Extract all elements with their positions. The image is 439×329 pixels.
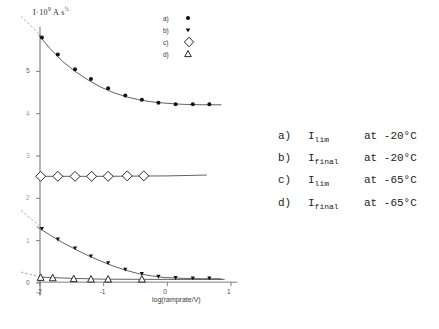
y-axis-title-unit-exponent: ½ bbox=[65, 6, 70, 12]
caption-row-d: d) Ifinal at -65°C bbox=[278, 194, 417, 216]
filled-triangle-down-icon bbox=[183, 25, 201, 35]
y-axis-title-unit: A s bbox=[53, 8, 65, 17]
x-tick-label-1: -1 bbox=[100, 288, 106, 295]
caption-row-b: b) Ifinal at -20°C bbox=[278, 149, 417, 171]
y-axis-title-dot: ·10 bbox=[36, 8, 48, 17]
data-point-a-9 bbox=[191, 102, 195, 106]
y-axis-title-exponent: 9 bbox=[48, 6, 51, 12]
caption-key-b: b) bbox=[278, 149, 308, 168]
caption-condition-b: at -20°C bbox=[364, 149, 417, 168]
caption-block: a) Ilim at -20°C b) Ifinal at -20°C c) I… bbox=[278, 127, 417, 216]
caption-symbol-d: Ifinal bbox=[308, 194, 364, 216]
data-point-a-6 bbox=[140, 98, 144, 102]
caption-symbol-c: Ilim bbox=[308, 171, 364, 193]
caption-key-a: a) bbox=[278, 127, 308, 146]
x-axis-title: log(ramprate/V) bbox=[152, 296, 201, 303]
caption-symbol-d-sub: final bbox=[315, 202, 339, 211]
caption-symbol-c-base: I bbox=[308, 174, 315, 186]
x-tick-label-2: 0 bbox=[163, 288, 167, 295]
legend-key-b: b) bbox=[163, 27, 183, 34]
legend-key-d: d) bbox=[163, 51, 183, 58]
caption-condition-d: at -65°C bbox=[364, 194, 417, 213]
data-point-c-5 bbox=[122, 171, 132, 181]
caption-key-d: d) bbox=[278, 194, 308, 213]
data-point-c-3 bbox=[87, 171, 97, 181]
legend-item-c: c) bbox=[163, 36, 227, 48]
y-tick-label-4: 4 bbox=[26, 110, 30, 117]
b-fit-curve bbox=[37, 227, 222, 279]
caption-condition-c: at -65°C bbox=[364, 171, 417, 190]
caption-symbol-a-base: I bbox=[308, 130, 315, 142]
data-point-c-2 bbox=[70, 171, 80, 181]
y-tick-label-1: 1 bbox=[26, 237, 30, 244]
data-point-a-2 bbox=[73, 67, 77, 71]
caption-symbol-b-base: I bbox=[308, 152, 315, 164]
legend-item-a: a) bbox=[163, 12, 227, 24]
data-point-a-0 bbox=[40, 35, 44, 39]
data-point-c-6 bbox=[139, 171, 149, 181]
x-tick-label-0: -2 bbox=[36, 288, 42, 295]
d-dashed bbox=[21, 272, 41, 277]
y-tick-label-2: 2 bbox=[26, 194, 30, 201]
data-point-a-7 bbox=[156, 101, 160, 105]
filled-circle-icon bbox=[183, 13, 201, 23]
data-point-a-5 bbox=[123, 93, 127, 97]
data-point-a-10 bbox=[207, 102, 211, 106]
caption-symbol-b-sub: final bbox=[315, 157, 339, 166]
y-tick-label-0: 0 bbox=[26, 279, 30, 286]
caption-key-c: c) bbox=[278, 171, 308, 190]
data-point-c-1 bbox=[53, 171, 63, 181]
caption-symbol-b: Ifinal bbox=[308, 149, 364, 171]
data-point-c-4 bbox=[103, 171, 113, 181]
legend-item-d: d) bbox=[163, 48, 227, 60]
y-tick-label-3: 3 bbox=[26, 152, 30, 159]
legend-key-a: a) bbox=[163, 15, 183, 22]
y-tick-label-5: 5 bbox=[26, 67, 30, 74]
data-point-a-4 bbox=[106, 86, 110, 90]
b-dashed bbox=[21, 210, 42, 228]
legend-item-b: b) bbox=[163, 24, 227, 36]
data-point-a-3 bbox=[89, 77, 93, 81]
data-point-d-5 bbox=[138, 276, 145, 282]
a-dashed bbox=[21, 16, 42, 36]
caption-symbol-a-sub: lim bbox=[315, 135, 329, 144]
y-axis-title: I·109 A s½ bbox=[33, 6, 69, 17]
open-triangle-up-icon bbox=[183, 49, 201, 59]
caption-symbol-c-sub: lim bbox=[315, 180, 329, 189]
open-diamond-icon bbox=[183, 36, 201, 48]
caption-row-a: a) Ilim at -20°C bbox=[278, 127, 417, 149]
figure-root: I·109 A s½ log(ramprate/V) a) b) c) d) bbox=[0, 0, 439, 329]
caption-symbol-d-base: I bbox=[308, 197, 315, 209]
caption-condition-a: at -20°C bbox=[364, 127, 417, 146]
data-point-a-1 bbox=[56, 52, 60, 56]
legend-key-c: c) bbox=[163, 39, 183, 46]
data-point-a-8 bbox=[174, 102, 178, 106]
x-tick-label-3: 1 bbox=[227, 288, 231, 295]
caption-row-c: c) Ilim at -65°C bbox=[278, 171, 417, 193]
caption-symbol-a: Ilim bbox=[308, 127, 364, 149]
data-point-c-0 bbox=[36, 171, 46, 181]
legend: a) b) c) d) bbox=[163, 12, 227, 60]
